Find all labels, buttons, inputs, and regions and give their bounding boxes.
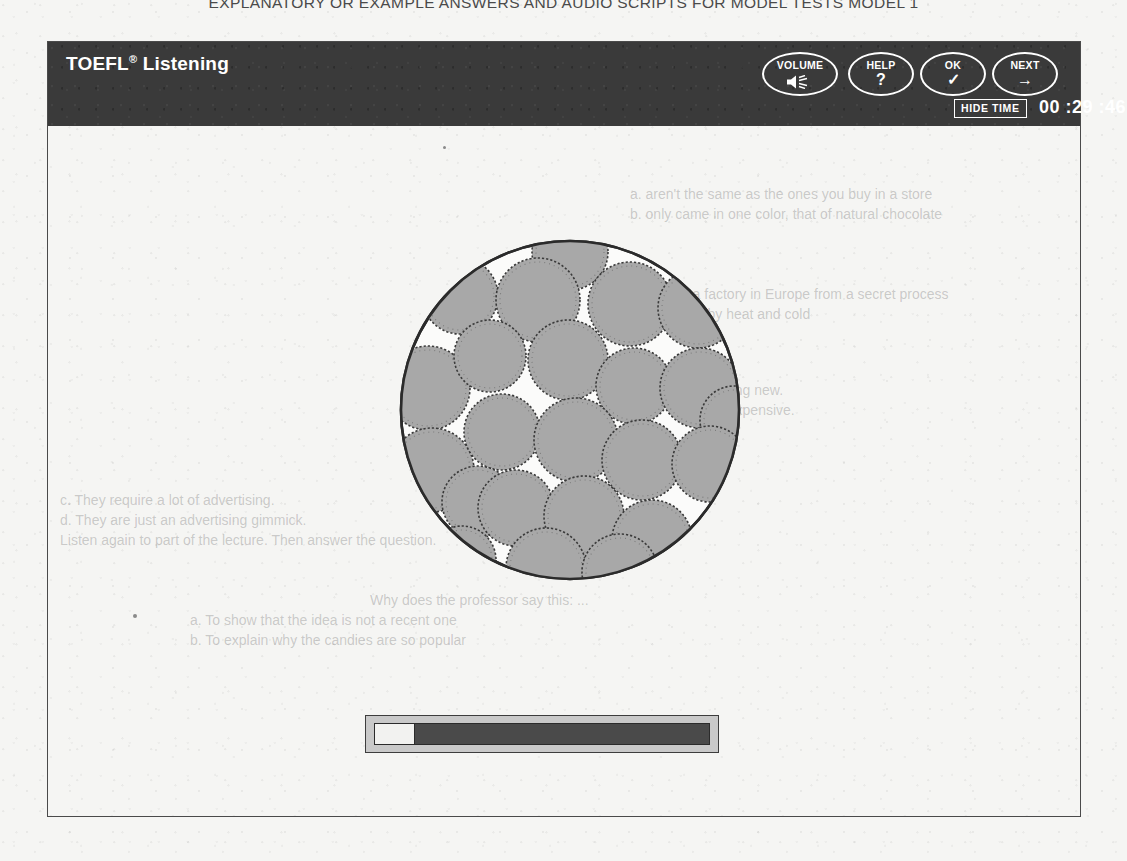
running-head: EXPLANATORY OR EXAMPLE ANSWERS AND AUDIO…: [0, 0, 1127, 8]
cell: [454, 320, 526, 392]
audio-progress-bar[interactable]: [365, 715, 719, 753]
hide-time-button[interactable]: HIDE TIME: [954, 99, 1027, 118]
toefl-header-bar: TOEFL® Listening VOLUME HELP ? OK ✓ NEXT: [48, 42, 1080, 126]
help-button-label: HELP: [850, 60, 912, 71]
cell: [658, 268, 738, 348]
toefl-wordmark: TOEFL: [66, 53, 129, 74]
speaker-icon: [764, 73, 836, 89]
volume-button-label: VOLUME: [764, 60, 836, 71]
help-button[interactable]: HELP ?: [848, 52, 914, 96]
toefl-test-window: TOEFL® Listening VOLUME HELP ? OK ✓ NEXT: [47, 41, 1081, 817]
volume-button[interactable]: VOLUME: [762, 52, 838, 96]
audio-progress-track[interactable]: [374, 723, 710, 745]
page-title: TOEFL® Listening: [66, 53, 229, 75]
toefl-content-pane: [48, 126, 1079, 815]
registered-trademark-icon: ®: [129, 53, 137, 65]
cell: [602, 420, 682, 500]
checkmark-icon: ✓: [922, 72, 984, 88]
ok-button[interactable]: OK ✓: [920, 52, 986, 96]
section-name: Listening: [143, 53, 229, 74]
timer-display: 00 :29 :46: [1039, 97, 1126, 118]
next-button-label: NEXT: [994, 60, 1056, 71]
microscope-field-figure: [398, 238, 742, 582]
ok-button-label: OK: [922, 60, 984, 71]
audio-progress-fill: [375, 724, 415, 744]
cell: [528, 320, 608, 400]
arrow-right-icon: →: [994, 72, 1056, 88]
next-button[interactable]: NEXT →: [992, 52, 1058, 96]
question-mark-icon: ?: [850, 72, 912, 88]
cell: [464, 394, 540, 470]
